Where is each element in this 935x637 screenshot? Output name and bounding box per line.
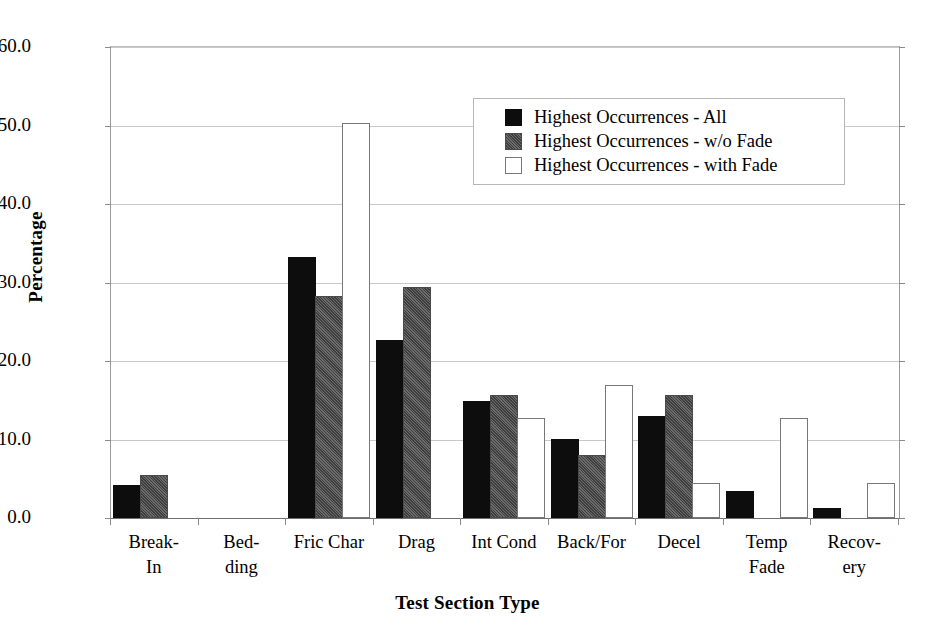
y-tick-label: 60.0 bbox=[0, 35, 31, 57]
legend-label: Highest Occurrences - with Fade bbox=[534, 155, 778, 176]
y-tick-mark bbox=[899, 518, 905, 519]
y-axis-title: Percentage bbox=[25, 157, 47, 357]
legend-label: Highest Occurrences - All bbox=[534, 107, 727, 128]
x-tick-mark bbox=[198, 518, 199, 525]
x-tick-mark bbox=[460, 518, 461, 525]
legend-item: Highest Occurrences - All bbox=[474, 105, 844, 129]
bar bbox=[813, 508, 841, 518]
x-tick-mark bbox=[723, 518, 724, 525]
y-tick-label: 20.0 bbox=[0, 349, 31, 371]
bar-group bbox=[199, 47, 287, 518]
bar bbox=[692, 483, 720, 518]
y-tick-mark bbox=[899, 283, 905, 284]
y-tick-label: 40.0 bbox=[0, 192, 31, 214]
x-axis-title: Test Section Type bbox=[0, 592, 935, 614]
x-tick-mark bbox=[635, 518, 636, 525]
bar bbox=[578, 455, 606, 518]
legend-label: Highest Occurrences - w/o Fade bbox=[534, 131, 772, 152]
legend-swatch-icon bbox=[505, 157, 522, 174]
x-tick-mark bbox=[110, 518, 111, 525]
y-tick-mark bbox=[899, 204, 905, 205]
bar bbox=[490, 395, 518, 518]
x-tick-mark bbox=[810, 518, 811, 525]
bar bbox=[726, 491, 754, 518]
y-tick-label: 0.0 bbox=[0, 506, 31, 528]
y-tick-mark bbox=[899, 361, 905, 362]
bar-chart: Percentage 0.010.020.030.040.050.060.0 B… bbox=[0, 0, 935, 637]
y-tick-label: 30.0 bbox=[0, 271, 31, 293]
bar bbox=[605, 385, 633, 518]
legend-item: Highest Occurrences - w/o Fade bbox=[474, 129, 844, 153]
y-tick-label: 50.0 bbox=[0, 114, 31, 136]
legend-swatch-icon bbox=[505, 133, 522, 150]
bar bbox=[517, 418, 545, 518]
y-tick-mark bbox=[899, 47, 905, 48]
y-tick-mark bbox=[899, 126, 905, 127]
x-tick-mark bbox=[898, 518, 899, 525]
bar bbox=[551, 439, 579, 518]
legend: Highest Occurrences - AllHighest Occurre… bbox=[473, 98, 845, 185]
bar bbox=[376, 340, 404, 518]
bar-group bbox=[111, 47, 199, 518]
bar bbox=[288, 257, 316, 518]
x-tick-mark bbox=[373, 518, 374, 525]
y-tick-label: 10.0 bbox=[0, 428, 31, 450]
x-tick-mark bbox=[285, 518, 286, 525]
bar bbox=[780, 418, 808, 518]
y-tick-mark bbox=[899, 440, 905, 441]
bar bbox=[638, 416, 666, 518]
bar bbox=[342, 123, 370, 518]
bar-group bbox=[286, 47, 374, 518]
bar bbox=[867, 483, 895, 518]
bar bbox=[140, 475, 168, 518]
bar bbox=[665, 395, 693, 518]
x-category-label: Recov- ery bbox=[800, 530, 908, 580]
legend-item: Highest Occurrences - with Fade bbox=[474, 153, 844, 177]
bar bbox=[403, 287, 431, 518]
bar bbox=[113, 485, 141, 518]
bar bbox=[315, 296, 343, 518]
bar-group bbox=[374, 47, 462, 518]
legend-swatch-icon bbox=[505, 109, 522, 126]
bar bbox=[463, 401, 491, 518]
x-tick-mark bbox=[548, 518, 549, 525]
